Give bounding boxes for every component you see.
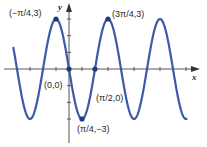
data-point: [79, 116, 84, 121]
x-axis-label: x: [191, 72, 197, 82]
label-trough: (π/4,−3): [77, 124, 109, 134]
data-point: [105, 16, 110, 21]
y-axis-label: y: [57, 2, 63, 12]
data-point: [66, 66, 71, 71]
label-zero-right: (π/2,0): [96, 93, 123, 103]
label-peak-left: (−π/4,3): [9, 8, 41, 18]
data-point: [92, 66, 97, 71]
sine-graph: x y (−π/4,3) (3π/4,3) (0,0) (π/2,0) (π/4…: [0, 0, 207, 147]
y-axis-arrow-icon: [66, 3, 72, 12]
point-labels: (−π/4,3) (3π/4,3) (0,0) (π/2,0) (π/4,−3): [9, 8, 144, 134]
axes: x y: [4, 2, 200, 143]
data-point: [53, 16, 58, 21]
label-origin: (0,0): [44, 80, 63, 90]
label-peak-right: (3π/4,3): [112, 9, 144, 19]
